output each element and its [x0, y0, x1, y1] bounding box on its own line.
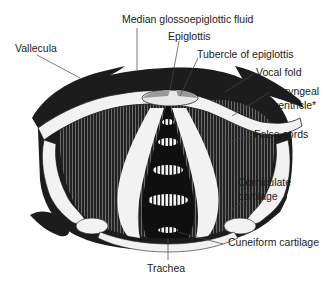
label-vallecula: Vallecula	[15, 42, 57, 54]
label-vocal-fold: Vocal fold	[256, 66, 302, 78]
larynx-diagram: Median glossoepiglottic fluid Epiglottis…	[0, 0, 334, 283]
label-false-cords: False cords	[254, 128, 308, 140]
label-corniculate-line2: cartilage	[238, 190, 278, 202]
label-laryngeal-ventricle-line1: Laryngeal	[273, 85, 319, 97]
label-laryngeal-ventricle-line2: ventricle*	[273, 99, 316, 111]
label-corniculate-line1: Corniculate	[238, 176, 291, 188]
label-cuneiform-cartilage: Cuneiform cartilage	[228, 236, 319, 248]
right-corniculate	[224, 218, 256, 234]
label-tubercle-of-epiglottis: Tubercle of epiglottis	[197, 48, 294, 60]
epiglottis-tubercle	[142, 90, 198, 106]
label-epiglottis: Epiglottis	[168, 30, 211, 42]
left-corniculate	[76, 218, 108, 234]
label-trachea: Trachea	[147, 262, 185, 274]
label-median-glossoepiglottic: Median glossoepiglottic fluid	[122, 13, 253, 25]
